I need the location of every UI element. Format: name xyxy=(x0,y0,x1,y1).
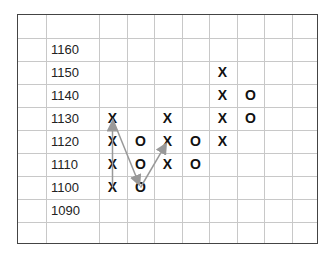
point-and-figure-chart: 11601150114011301120111011001090XXXXOOOX… xyxy=(17,14,318,244)
trend-arrows xyxy=(18,15,319,245)
arrow xyxy=(141,145,166,188)
arrow xyxy=(113,119,139,184)
